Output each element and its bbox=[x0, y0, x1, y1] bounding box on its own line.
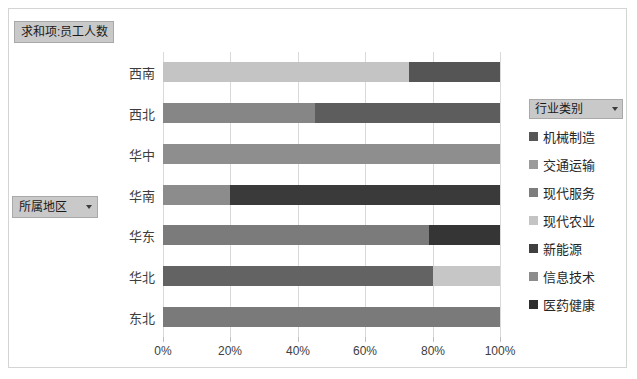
bar-segment[interactable] bbox=[163, 62, 409, 82]
bar-segment[interactable] bbox=[163, 266, 433, 286]
x-axis-tick-label: 60% bbox=[353, 344, 377, 358]
bar-series-row[interactable] bbox=[163, 185, 500, 205]
x-axis-tick bbox=[230, 337, 231, 342]
bar-segment[interactable] bbox=[433, 266, 500, 286]
legend-swatch-icon bbox=[529, 216, 538, 225]
x-axis-tick bbox=[365, 337, 366, 342]
bar-segment[interactable] bbox=[409, 62, 500, 82]
legend-swatch-icon bbox=[529, 132, 538, 141]
legend-field-button[interactable]: 行业类别 bbox=[529, 99, 623, 119]
gridline bbox=[500, 52, 501, 337]
y-axis-category-label: 华南 bbox=[129, 186, 155, 205]
legend-label: 机械制造 bbox=[543, 127, 595, 146]
x-axis: 0%20%40%60%80%100% bbox=[163, 337, 500, 361]
legend-item[interactable]: 现代服务 bbox=[529, 178, 629, 206]
legend-swatch-icon bbox=[529, 188, 538, 197]
bar-series-row[interactable] bbox=[163, 103, 500, 123]
legend-item[interactable]: 交通运输 bbox=[529, 150, 629, 178]
y-axis-category-label: 华东 bbox=[129, 226, 155, 245]
legend-field-label: 行业类别 bbox=[535, 101, 583, 117]
x-axis-tick bbox=[433, 337, 434, 342]
y-axis-category-label: 西南 bbox=[129, 63, 155, 82]
bar-segment[interactable] bbox=[230, 185, 500, 205]
legend-item[interactable]: 新能源 bbox=[529, 234, 629, 262]
legend-item[interactable]: 现代农业 bbox=[529, 206, 629, 234]
legend-label: 新能源 bbox=[543, 239, 582, 258]
y-axis-category-label: 西北 bbox=[129, 104, 155, 123]
x-axis-tick-label: 40% bbox=[286, 344, 310, 358]
bar-series-row[interactable] bbox=[163, 266, 500, 286]
legend-item[interactable]: 机械制造 bbox=[529, 122, 629, 150]
legend-label: 交通运输 bbox=[543, 155, 595, 174]
y-axis-category-label: 东北 bbox=[129, 308, 155, 327]
x-axis-tick-label: 80% bbox=[421, 344, 445, 358]
bar-segment[interactable] bbox=[315, 103, 500, 123]
bar-segment[interactable] bbox=[163, 103, 315, 123]
bar-series-row[interactable] bbox=[163, 144, 500, 164]
pivot-chart-root: 求和项:员工人数 所属地区 行业类别 西南西北华中华南华东华北东北 0%20%4… bbox=[0, 0, 637, 379]
legend-swatch-icon bbox=[529, 244, 538, 253]
legend-item[interactable]: 医药健康 bbox=[529, 290, 629, 318]
y-axis-category-label: 华中 bbox=[129, 145, 155, 164]
row-field-label: 所属地区 bbox=[19, 199, 67, 215]
x-axis-tick bbox=[500, 337, 501, 342]
x-axis-tick bbox=[298, 337, 299, 342]
legend-label: 现代农业 bbox=[543, 211, 595, 230]
y-axis-category-label: 华北 bbox=[129, 267, 155, 286]
legend-label: 医药健康 bbox=[543, 295, 595, 314]
legend-item[interactable]: 信息技术 bbox=[529, 262, 629, 290]
bar-segment[interactable] bbox=[429, 225, 500, 245]
bar-segment[interactable] bbox=[163, 144, 500, 164]
x-axis-tick bbox=[163, 337, 164, 342]
legend-label: 现代服务 bbox=[543, 183, 595, 202]
chevron-down-icon[interactable] bbox=[612, 107, 618, 111]
legend-label: 信息技术 bbox=[543, 267, 595, 286]
x-axis-tick-label: 0% bbox=[154, 344, 171, 358]
value-field-button[interactable]: 求和项:员工人数 bbox=[14, 21, 114, 43]
x-axis-tick-label: 100% bbox=[485, 344, 516, 358]
x-axis-tick-label: 20% bbox=[218, 344, 242, 358]
legend-swatch-icon bbox=[529, 272, 538, 281]
bar-segment[interactable] bbox=[163, 307, 500, 327]
plot-area bbox=[163, 52, 500, 337]
legend-swatch-icon bbox=[529, 160, 538, 169]
chart-legend: 机械制造交通运输现代服务现代农业新能源信息技术医药健康 bbox=[529, 122, 629, 318]
y-axis-labels: 西南西北华中华南华东华北东北 bbox=[75, 52, 155, 337]
bar-series-row[interactable] bbox=[163, 62, 500, 82]
value-field-label: 求和项:员工人数 bbox=[21, 24, 108, 40]
bar-segment[interactable] bbox=[163, 225, 429, 245]
bar-series-row[interactable] bbox=[163, 307, 500, 327]
legend-swatch-icon bbox=[529, 300, 538, 309]
bar-series-row[interactable] bbox=[163, 225, 500, 245]
bar-segment[interactable] bbox=[163, 185, 230, 205]
